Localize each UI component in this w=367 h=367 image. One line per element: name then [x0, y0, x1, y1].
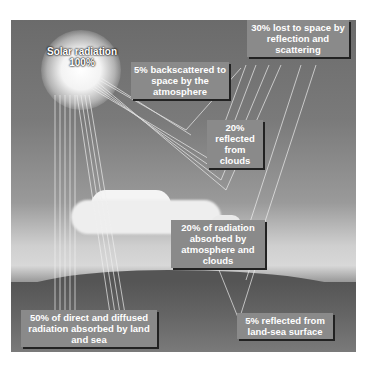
label-reflected-clouds: 20% reflected from clouds — [207, 120, 263, 168]
label-absorbed-atmosphere: 20% of radiation absorbed by atmosphere … — [171, 220, 265, 268]
label-reflected-surface: 5% reflected from land-sea surface — [237, 313, 333, 339]
label-lost-to-space: 30% lost to space by reflection and scat… — [247, 20, 349, 57]
source-label: Solar radiation 100% — [37, 46, 127, 68]
label-absorbed-land-sea: 50% of direct and diffused radiation abs… — [21, 310, 157, 347]
source-value: 100% — [37, 57, 127, 68]
label-backscattered: 5% backscattered to space by the atmosph… — [131, 62, 229, 99]
diagram-frame: Solar radiation 100% 30% lost to space b… — [11, 20, 356, 352]
source-name: Solar radiation — [37, 46, 127, 57]
